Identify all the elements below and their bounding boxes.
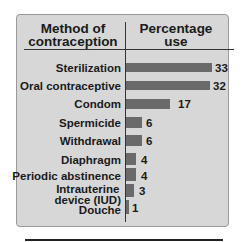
bar-diaphragm (126, 153, 136, 165)
bar-sterilization (126, 63, 212, 72)
value-spermicide: 6 (146, 118, 152, 129)
row-label-oral-contraceptive: Oral contraceptive (20, 81, 121, 92)
value-iud: 3 (139, 186, 145, 197)
bar-oral-contraceptive (126, 81, 210, 90)
bar-withdrawal (126, 135, 142, 146)
method-header-line2: contraception (24, 35, 122, 48)
bar-spermicide (126, 117, 142, 128)
pct-header-line2: use (128, 35, 224, 48)
bar-condom (126, 99, 170, 109)
value-douche: 1 (132, 203, 138, 214)
row-label-condom: Condom (74, 99, 121, 110)
row-label-periodic-abstinence: Periodic abstinence (12, 171, 121, 182)
value-periodic-abstinence: 4 (141, 171, 147, 182)
bar-iud (126, 184, 134, 197)
row-label-sterilization: Sterilization (56, 63, 121, 74)
method-column-header: Method of contraception (24, 22, 122, 48)
value-sterilization: 33 (215, 63, 228, 74)
percentage-column-header: Percentage use (128, 22, 224, 48)
row-label-withdrawal: Withdrawal (60, 136, 121, 147)
value-diaphragm: 4 (141, 155, 147, 166)
row-label-iud: Intrauterine device (IUD) (55, 184, 121, 206)
bar-periodic-abstinence (126, 168, 136, 181)
value-withdrawal: 6 (146, 136, 152, 147)
row-label-diaphragm: Diaphragm (61, 155, 121, 166)
row-label-spermicide: Spermicide (59, 118, 121, 129)
bottom-rule (25, 239, 223, 241)
value-condom: 17 (178, 99, 191, 110)
header-divider (24, 49, 234, 50)
value-oral-contraceptive: 32 (213, 81, 226, 92)
bar-douche (126, 200, 129, 214)
row-label-douche: Douche (79, 205, 121, 216)
